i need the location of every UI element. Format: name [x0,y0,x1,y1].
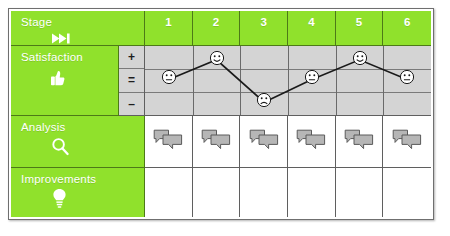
column-header-6-label: 6 [404,16,410,28]
column-header-1-label: 1 [165,16,171,28]
row-label-improvements-text: Improvements [21,173,144,186]
analysis-cell-5[interactable] [336,116,384,168]
speech-bubbles-icon [344,129,374,155]
satisfaction-chart[interactable] [145,46,431,116]
magnifier-icon [51,137,144,160]
column-header-3[interactable]: 3 [240,11,288,46]
speech-bubbles-icon [392,129,422,155]
header-stage-label-cell: Stage [11,11,145,46]
row-label-analysis: Analysis [11,116,145,168]
satisfaction-marker-6[interactable] [400,70,415,89]
skip-forward-icon [51,30,144,46]
lightbulb-icon [51,188,144,213]
scale-step-negative: – [119,93,144,115]
journey-board: Stage 1 2 3 4 5 6 [8,8,434,220]
improvements-cell-1[interactable] [145,168,193,217]
satisfaction-marker-5[interactable] [352,50,367,69]
scale-step-neutral: = [119,69,144,92]
thumbs-up-icon [49,69,118,91]
row-label-improvements: Improvements [11,168,145,217]
speech-bubbles-icon [201,129,231,155]
analysis-cell-3[interactable] [240,116,288,168]
improvements-cell-4[interactable] [288,168,336,217]
row-label-satisfaction: Satisfaction [11,46,119,116]
satisfaction-marker-2[interactable] [209,50,224,69]
speech-bubbles-icon [153,129,183,155]
row-label-analysis-text: Analysis [21,121,144,134]
improvements-cell-2[interactable] [193,168,241,217]
column-header-4[interactable]: 4 [288,11,336,46]
analysis-cell-6[interactable] [383,116,431,168]
column-header-3-label: 3 [260,16,266,28]
analysis-cell-2[interactable] [193,116,241,168]
improvements-cell-5[interactable] [336,168,384,217]
column-header-2[interactable]: 2 [193,11,241,46]
analysis-cell-1[interactable] [145,116,193,168]
improvements-cell-6[interactable] [383,168,431,217]
satisfaction-marker-1[interactable] [161,70,176,89]
speech-bubbles-icon [249,129,279,155]
satisfaction-scale-column: + = – [119,46,145,116]
column-header-6[interactable]: 6 [383,11,431,46]
row-label-satisfaction-text: Satisfaction [21,51,118,64]
improvements-cell-3[interactable] [240,168,288,217]
satisfaction-marker-4[interactable] [304,70,319,89]
column-header-4-label: 4 [308,16,314,28]
speech-bubbles-icon [296,129,326,155]
satisfaction-line-svg [145,46,431,115]
satisfaction-marker-3[interactable] [257,92,272,111]
journey-grid: Stage 1 2 3 4 5 6 [11,11,431,217]
header-stage-label: Stage [21,16,144,29]
analysis-cell-4[interactable] [288,116,336,168]
scale-step-positive: + [119,46,144,69]
column-header-1[interactable]: 1 [145,11,193,46]
column-header-5-label: 5 [356,16,362,28]
satisfaction-line [169,60,407,102]
column-header-5[interactable]: 5 [336,11,384,46]
column-header-2-label: 2 [213,16,219,28]
